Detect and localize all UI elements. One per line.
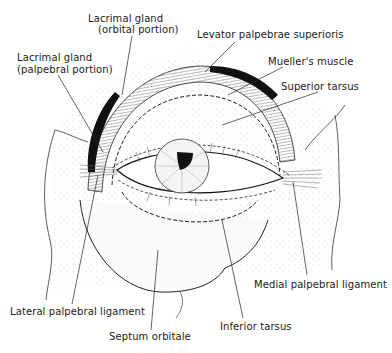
eyelid-anatomy-figure: Lacrimal gland (orbital portion) Lacrima… xyxy=(0,0,392,353)
label-superior-tarsus: Superior tarsus xyxy=(281,81,359,92)
label-lateral-ligament: Lateral palpebral ligament xyxy=(10,306,145,317)
label-lacrimal-orbital-1: Lacrimal gland xyxy=(88,13,163,24)
label-inferior-tarsus: Inferior tarsus xyxy=(220,321,292,332)
label-levator: Levator palpebrae superioris xyxy=(197,29,344,40)
label-lacrimal-orbital-2: (orbital portion) xyxy=(98,24,179,35)
label-medial-ligament: Medial palpebral ligament xyxy=(254,279,387,290)
label-lacrimal-palpebral-1: Lacrimal gland xyxy=(17,52,92,63)
label-mueller: Mueller's muscle xyxy=(268,56,353,67)
label-lacrimal-palpebral-2: (palpebral portion) xyxy=(17,64,113,75)
label-septum: Septum orbitale xyxy=(109,331,191,342)
